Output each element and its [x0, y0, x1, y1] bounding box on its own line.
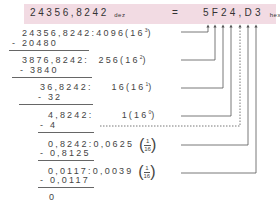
digit-connector-arrows — [0, 0, 280, 209]
